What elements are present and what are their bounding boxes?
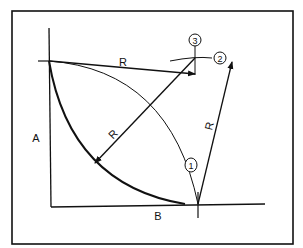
marker-two: 2 [214, 52, 226, 64]
arrow-r-right [198, 62, 232, 204]
label-r-top: R [119, 56, 127, 68]
svg-text:1: 1 [188, 161, 193, 171]
diagram-canvas: 1 2 3 A B R R R [0, 0, 303, 248]
svg-text:3: 3 [192, 36, 197, 46]
small-arc [170, 57, 212, 61]
svg-text:2: 2 [217, 54, 222, 64]
marker-three: 3 [189, 34, 201, 46]
arrow-r-diag [95, 58, 195, 163]
frame [12, 11, 293, 244]
label-b: B [154, 210, 161, 222]
axis-b [51, 204, 265, 207]
label-r-right: R [202, 121, 216, 132]
label-a: A [32, 132, 40, 144]
marker-one: 1 [185, 158, 197, 172]
axis-a [49, 28, 51, 207]
